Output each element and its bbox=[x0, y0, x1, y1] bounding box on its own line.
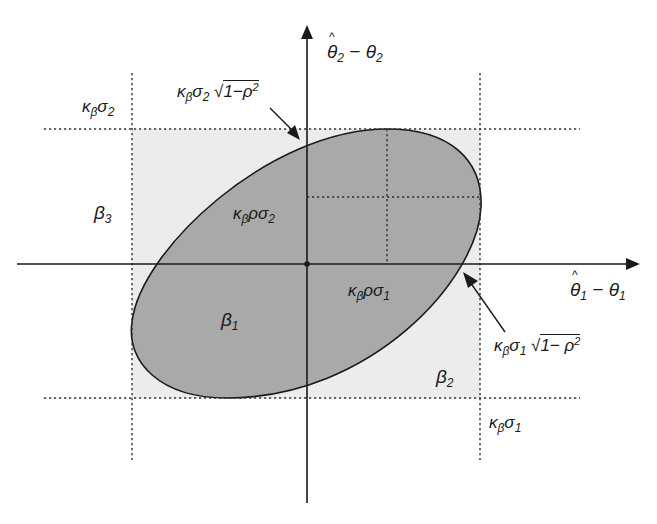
region-beta2-label: β2 bbox=[436, 367, 454, 389]
kappa: κ bbox=[177, 82, 186, 101]
radicand: 1−ρ2 bbox=[223, 80, 258, 101]
kappa: κ bbox=[233, 204, 242, 223]
beta: β bbox=[436, 366, 447, 387]
minus-theta: − θ bbox=[344, 41, 376, 62]
kappa: κ bbox=[82, 97, 91, 116]
x-axis-label: θ1 − θ1 bbox=[570, 280, 626, 302]
sub: 1 bbox=[515, 421, 522, 435]
origin-point bbox=[304, 261, 310, 267]
kappa: κ bbox=[348, 281, 357, 300]
kappa: κ bbox=[494, 336, 503, 355]
theta-hat: θ bbox=[327, 42, 337, 61]
sub: 2 bbox=[108, 105, 115, 119]
theta-hat: θ bbox=[570, 280, 580, 299]
radicand-text: 1− ρ bbox=[540, 336, 574, 355]
inner-horizontal-label: κβρσ1 bbox=[348, 282, 390, 302]
sub: 1 bbox=[580, 289, 587, 303]
diagram-graphics bbox=[0, 0, 657, 524]
sub: 3 bbox=[105, 212, 112, 226]
sub: 1 bbox=[383, 289, 390, 303]
inner-vertical-label: κβρσ2 bbox=[233, 205, 275, 225]
lower-bound-label: κβσ1 bbox=[489, 414, 521, 434]
beta: β bbox=[221, 309, 232, 330]
diagram-canvas: θ2 − θ2 θ1 − θ1 κβσ2 κβσ2 √1−ρ2 β3 κβρσ2… bbox=[0, 0, 657, 524]
radicand-text: 1−ρ bbox=[223, 82, 252, 101]
sub: 2 bbox=[376, 51, 383, 65]
top-tangent-label: κβσ2 √1−ρ2 bbox=[177, 82, 259, 103]
sub: 1 bbox=[232, 319, 239, 333]
sigma: σ bbox=[192, 82, 202, 101]
sqrt-expression: √1− ρ2 bbox=[531, 336, 580, 354]
sub: 2 bbox=[447, 376, 454, 390]
sigma: σ bbox=[97, 97, 107, 116]
kappa: κ bbox=[489, 413, 498, 432]
region-beta3-label: β3 bbox=[94, 203, 112, 225]
sigma: σ bbox=[504, 413, 514, 432]
sub: 2 bbox=[337, 51, 344, 65]
radicand: 1− ρ2 bbox=[540, 334, 580, 355]
y-axis-arrow-icon bbox=[301, 25, 313, 39]
y-axis-label: θ2 − θ2 bbox=[327, 42, 383, 64]
rho-sigma: ρσ bbox=[248, 204, 268, 223]
upper-bound-label: κβσ2 bbox=[82, 98, 114, 118]
region-beta1-label: β1 bbox=[221, 310, 239, 332]
right-tangent-label: κβσ1 √1− ρ2 bbox=[494, 336, 580, 357]
sub: 1 bbox=[520, 344, 527, 358]
sup: 2 bbox=[253, 81, 259, 93]
x-axis-arrow-icon bbox=[626, 258, 640, 270]
sup: 2 bbox=[574, 335, 580, 347]
beta: β bbox=[94, 202, 105, 223]
sqrt-expression: √1−ρ2 bbox=[214, 82, 259, 100]
minus-theta: − θ bbox=[587, 279, 619, 300]
rho-sigma: ρσ bbox=[363, 281, 383, 300]
sigma: σ bbox=[509, 336, 519, 355]
sub: 2 bbox=[268, 212, 275, 226]
sub: 2 bbox=[203, 90, 210, 104]
sub: 1 bbox=[619, 289, 626, 303]
